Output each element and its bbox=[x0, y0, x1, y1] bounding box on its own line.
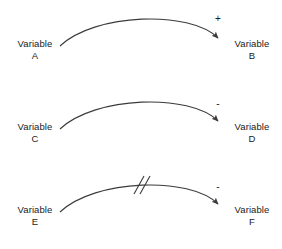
node-name-text: Variable bbox=[222, 38, 282, 50]
node-sub-text: C bbox=[5, 133, 65, 145]
arrow-variable-a-to-variable-b bbox=[60, 19, 218, 46]
node-name-text: Variable bbox=[222, 121, 282, 133]
arrow-variable-c-to-variable-d bbox=[60, 102, 218, 129]
node-name-text: Variable bbox=[5, 204, 65, 216]
node-sub-text: F bbox=[222, 216, 282, 228]
arrow-curve-3 bbox=[60, 185, 218, 212]
node-name-text: Variable bbox=[222, 204, 282, 216]
arrow-variable-e-to-variable-f bbox=[60, 176, 218, 212]
node-sub-text: E bbox=[5, 216, 65, 228]
causal-loop-diagram: Variable A Variable B + Variable C Varia… bbox=[0, 0, 282, 249]
polarity-sign-positive: + bbox=[212, 14, 224, 24]
node-name-text: Variable bbox=[5, 121, 65, 133]
node-label-variable-c: Variable C bbox=[5, 121, 65, 145]
node-sub-text: A bbox=[5, 50, 65, 62]
node-sub-text: D bbox=[222, 133, 282, 145]
node-label-variable-b: Variable B bbox=[222, 38, 282, 62]
node-label-variable-d: Variable D bbox=[222, 121, 282, 145]
arrow-curve-2 bbox=[60, 102, 218, 129]
node-label-variable-f: Variable F bbox=[222, 204, 282, 228]
polarity-sign-negative-2: - bbox=[212, 182, 224, 192]
polarity-sign-negative-1: - bbox=[212, 99, 224, 109]
node-name-text: Variable bbox=[5, 38, 65, 50]
node-label-variable-e: Variable E bbox=[5, 204, 65, 228]
node-label-variable-a: Variable A bbox=[5, 38, 65, 62]
arrow-curve-1 bbox=[60, 19, 218, 46]
node-sub-text: B bbox=[222, 50, 282, 62]
